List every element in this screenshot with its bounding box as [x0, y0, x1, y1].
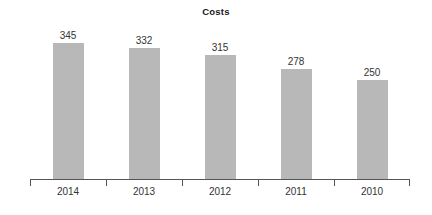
axis-tick	[258, 180, 259, 186]
bar	[357, 80, 388, 179]
category-label: 2011	[266, 186, 326, 197]
category-label: 2010	[342, 186, 402, 197]
bar-value-label: 315	[190, 42, 250, 53]
bar	[281, 69, 312, 179]
bar-chart: Costs 3452014332201331520122782011250201…	[0, 0, 432, 215]
category-label: 2014	[38, 186, 98, 197]
bar-value-label: 250	[342, 67, 402, 78]
axis-tick	[106, 180, 107, 186]
x-axis-line	[30, 179, 410, 180]
axis-tick	[182, 180, 183, 186]
bar-value-label: 345	[38, 30, 98, 41]
category-label: 2013	[114, 186, 174, 197]
axis-tick	[409, 180, 410, 186]
bar	[129, 48, 160, 179]
bar-value-label: 332	[114, 35, 174, 46]
category-label: 2012	[190, 186, 250, 197]
bar	[205, 55, 236, 179]
bar-value-label: 278	[266, 56, 326, 67]
axis-tick	[334, 180, 335, 186]
bar	[53, 43, 84, 179]
axis-tick	[30, 180, 31, 186]
plot-area: 34520143322013315201227820112502010	[0, 0, 432, 215]
